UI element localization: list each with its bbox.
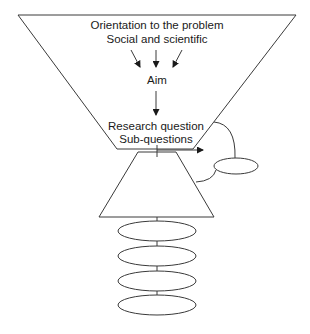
research-funnel-diagram: Orientation to the problem Social and sc… bbox=[0, 0, 310, 334]
arrow-right-to-aim bbox=[173, 50, 182, 67]
social-scientific-label: Social and scientific bbox=[107, 33, 208, 45]
feedback-curve-bottom bbox=[196, 170, 216, 182]
stacked-ellipse-3 bbox=[118, 271, 196, 291]
sub-questions-label: Sub-questions bbox=[119, 133, 193, 145]
stacked-ellipse-4 bbox=[118, 295, 196, 315]
stacked-ellipse-1 bbox=[118, 221, 196, 241]
orientation-label: Orientation to the problem bbox=[91, 19, 224, 31]
lower-trapezoid-shape bbox=[99, 152, 214, 217]
aim-label: Aim bbox=[147, 74, 167, 86]
stacked-ellipse-2 bbox=[118, 246, 196, 266]
arrow-left-to-aim bbox=[131, 50, 140, 67]
side-ellipse bbox=[214, 158, 258, 174]
feedback-curve-top bbox=[214, 122, 235, 158]
research-question-label: Research question bbox=[108, 120, 204, 132]
